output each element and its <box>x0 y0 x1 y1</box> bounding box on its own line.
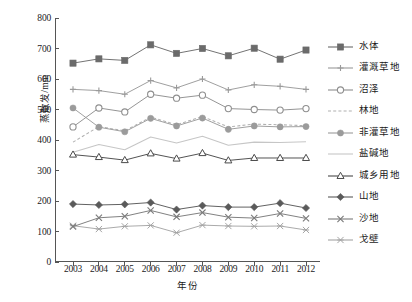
legend-label: 山地 <box>359 188 379 202</box>
data-point-plus <box>277 83 283 89</box>
series-6 <box>70 149 310 163</box>
legend-item-8[interactable]: 沙地 <box>327 206 411 228</box>
data-point-plus <box>225 87 231 93</box>
legend-swatch-cross-small-icon <box>327 232 354 244</box>
legend-label: 林地 <box>359 102 379 116</box>
data-point-open-circle <box>199 92 205 98</box>
data-point-plus <box>122 91 128 97</box>
legend-swatch-filled-square-icon <box>327 39 354 51</box>
x-axis-tick-label: 2007 <box>168 264 186 274</box>
legend-label: 沼泽 <box>359 81 379 95</box>
data-point-filled-circle <box>173 123 179 129</box>
series-line <box>73 117 306 143</box>
data-point-filled-square <box>173 50 179 56</box>
series-line <box>73 45 306 63</box>
data-point-filled-diamond <box>199 202 206 209</box>
data-point-open-circle <box>70 124 76 130</box>
data-point-cross-x <box>70 224 76 230</box>
data-point-filled-square <box>199 45 205 51</box>
data-point-cross-small <box>225 223 231 229</box>
x-axis-tick-label: 2010 <box>245 264 263 274</box>
data-point-filled-circle <box>337 130 343 136</box>
legend-label: 灌溉草地 <box>359 59 400 73</box>
series-0 <box>70 42 309 67</box>
data-point-open-triangle <box>251 154 258 160</box>
legend-label: 沙地 <box>359 210 379 224</box>
legend-label: 城乡用地 <box>359 167 400 181</box>
data-point-open-circle <box>225 105 231 111</box>
data-point-filled-diamond <box>337 194 344 201</box>
legend-swatch-open-triangle-icon <box>327 168 354 180</box>
data-point-filled-circle <box>225 126 231 132</box>
data-point-filled-circle <box>148 115 154 121</box>
series-line <box>73 203 306 210</box>
legend-swatch-cross-x-icon <box>327 211 354 223</box>
legend-item-9[interactable]: 戈壁 <box>327 228 411 250</box>
legend-label: 非灌草地 <box>359 124 400 138</box>
data-point-filled-diamond <box>225 204 232 211</box>
data-point-open-circle <box>251 106 257 112</box>
data-point-filled-diamond <box>251 204 258 211</box>
legend-label: 盐碱地 <box>359 145 390 159</box>
legend-item-5[interactable]: 盐碱地 <box>327 142 411 164</box>
y-axis-tick-mark <box>55 262 59 263</box>
data-point-plus <box>251 82 257 88</box>
data-point-cross-small <box>277 223 283 229</box>
data-point-open-circle <box>277 107 283 113</box>
legend-label: 戈壁 <box>359 231 379 245</box>
data-point-plus <box>173 85 179 91</box>
legend-item-7[interactable]: 山地 <box>327 185 411 207</box>
data-point-plus <box>70 86 76 92</box>
legend-item-2[interactable]: 沼泽 <box>327 77 411 99</box>
data-point-plus <box>96 87 102 93</box>
legend-item-6[interactable]: 城乡用地 <box>327 163 411 185</box>
legend-swatch-none-icon <box>327 103 354 115</box>
y-axis-tick-label: 0 <box>46 257 51 267</box>
x-axis-tick-labels: 2003200420052006200720082009201020112012 <box>55 264 320 278</box>
data-point-filled-square <box>148 42 154 48</box>
legend-item-0[interactable]: 水体 <box>327 34 411 56</box>
series-line <box>73 225 306 233</box>
data-point-cross-small <box>148 222 154 228</box>
series-7 <box>69 199 309 213</box>
y-axis-tick-label: 100 <box>37 227 51 237</box>
data-point-filled-circle <box>122 129 128 135</box>
data-point-plus <box>148 77 154 83</box>
data-point-filled-diamond <box>147 199 154 206</box>
y-axis-tick-label: 300 <box>37 166 51 176</box>
x-axis-tick-label: 2011 <box>271 264 288 274</box>
series-1 <box>70 76 309 97</box>
x-axis-tick-label: 2003 <box>64 264 82 274</box>
data-point-filled-circle <box>199 115 205 121</box>
x-axis-tick-label: 2012 <box>297 264 315 274</box>
data-point-open-triangle <box>277 154 284 160</box>
data-point-cross-small <box>96 226 102 232</box>
data-point-filled-circle <box>70 105 76 111</box>
legend-item-4[interactable]: 非灌草地 <box>327 120 411 142</box>
data-point-open-circle <box>303 105 309 111</box>
series-5 <box>73 136 306 152</box>
legend-item-1[interactable]: 灌溉草地 <box>327 56 411 78</box>
legend-item-3[interactable]: 林地 <box>327 99 411 121</box>
series-9 <box>70 222 309 236</box>
data-point-open-circle <box>148 91 154 97</box>
data-point-filled-circle <box>277 124 283 130</box>
data-point-filled-diamond <box>277 200 284 207</box>
data-point-cross-small <box>303 227 309 233</box>
y-axis-tick-mark <box>55 140 59 141</box>
data-point-open-triangle <box>337 172 344 178</box>
data-point-filled-square <box>303 47 309 53</box>
data-point-filled-circle <box>96 124 102 130</box>
data-point-cross-small <box>251 223 257 229</box>
data-point-plus <box>199 76 205 82</box>
data-point-filled-diamond <box>121 201 128 208</box>
data-point-filled-diamond <box>69 200 76 207</box>
legend-label: 水体 <box>359 38 379 52</box>
y-axis-tick-mark <box>55 48 59 49</box>
data-point-plus <box>303 86 309 92</box>
data-point-cross-small <box>337 237 343 243</box>
x-axis-tick-label: 2005 <box>116 264 134 274</box>
legend-swatch-plus-icon <box>327 60 354 72</box>
data-point-filled-square <box>70 60 76 66</box>
legend-swatch-open-circle-icon <box>327 82 354 94</box>
